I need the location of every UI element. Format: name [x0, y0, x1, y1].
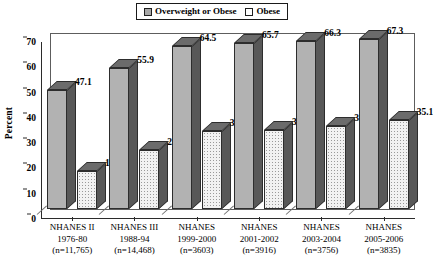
- bar-front-face: [47, 90, 67, 209]
- bar-front-face: [202, 131, 222, 209]
- bar-value-label: 66.3: [324, 28, 341, 38]
- bar-side-face: [129, 60, 138, 209]
- bar-side-face: [159, 142, 168, 209]
- bar-side-face: [379, 31, 388, 209]
- legend-swatch-icon-overweight-or-obese: [144, 8, 152, 16]
- bar-overweight-or-obese: 67.3: [359, 39, 379, 209]
- bar-overweight-or-obese: 47.1: [47, 90, 67, 209]
- x-axis-category-label: NHANES II1976-80(n=11,765): [41, 222, 103, 257]
- y-axis-tick-mark: [23, 112, 27, 113]
- bar-value-label: 64.5: [200, 33, 217, 43]
- bar-value-label: 67.3: [387, 26, 404, 36]
- x-axis-category-line: NHANES: [166, 222, 228, 234]
- y-axis-tick-label: 20: [27, 163, 42, 173]
- floor-depth-edge: [37, 205, 47, 214]
- x-axis-tick-mark: [384, 217, 385, 221]
- legend-swatch-icon-obese: [245, 8, 253, 16]
- bar-front-face: [264, 130, 284, 209]
- bar-overweight-or-obese: 64.5: [172, 46, 192, 209]
- bar-value-label: 55.9: [137, 55, 154, 65]
- x-axis-category-line: 1976-80: [41, 234, 103, 246]
- bar-value-label: 65.7: [262, 30, 279, 40]
- bar-front-face: [326, 126, 346, 209]
- y-axis-tick-label: 30: [27, 138, 42, 148]
- bar-side-face: [97, 163, 106, 209]
- x-axis-category-line: (n=3835): [353, 245, 415, 257]
- x-axis-tick-mark: [72, 217, 73, 221]
- bar-front-face: [139, 150, 159, 209]
- x-axis-tick-mark: [321, 217, 322, 221]
- y-axis-tick-label: 60: [27, 62, 42, 72]
- bar-group: 65.731.3: [234, 32, 296, 209]
- bar-obese: 32.9: [326, 126, 346, 209]
- bars-layer: 47.11555.923.264.530.965.731.366.332.967…: [41, 33, 415, 219]
- bar-side-face: [67, 82, 76, 209]
- bar-obese: 35.1: [389, 120, 409, 209]
- bar-obese: 15: [77, 171, 97, 209]
- x-axis-category-line: 2005-2006: [353, 234, 415, 246]
- x-axis-category-line: 1988-94: [103, 234, 165, 246]
- bar-side-face: [316, 33, 325, 209]
- bar-side-face: [346, 118, 355, 209]
- chart-legend: Overweight or Obese Obese: [136, 3, 288, 20]
- legend-label-overweight-or-obese: Overweight or Obese: [155, 7, 236, 16]
- bar-front-face: [77, 171, 97, 209]
- y-axis-tick-label: 50: [27, 88, 42, 98]
- y-axis-title: Percent: [4, 93, 14, 153]
- bar-group: 47.115: [47, 32, 109, 209]
- y-axis-tick-mark: [23, 62, 27, 63]
- bar-side-face: [284, 122, 293, 209]
- x-axis-category-line: NHANES III: [103, 222, 165, 234]
- bar-obese: 23.2: [139, 150, 159, 209]
- legend-entry-overweight-or-obese: Overweight or Obese: [144, 7, 236, 16]
- bar-side-face: [409, 112, 418, 209]
- bar-side-face: [254, 35, 263, 209]
- x-axis-category-line: (n=14,468): [103, 245, 165, 257]
- bar-overweight-or-obese: 55.9: [109, 68, 129, 209]
- y-axis-tick-mark: [23, 138, 27, 139]
- x-axis-category-line: NHANES II: [41, 222, 103, 234]
- x-axis-category-label: NHANES2001-2002(n=3916): [228, 222, 290, 257]
- bar-side-face: [192, 38, 201, 209]
- y-axis-tick-label: 0: [31, 214, 41, 224]
- plot-area: 010203040506070 47.11555.923.264.530.965…: [41, 33, 415, 219]
- x-axis-category-label: NHANES1999-2000(n=3603): [166, 222, 228, 257]
- bar-group: 66.332.9: [296, 32, 358, 209]
- x-axis-category-label: NHANES III1988-94(n=14,468): [103, 222, 165, 257]
- y-axis-tick-mark: [23, 163, 27, 164]
- y-axis-tick-mark: [23, 87, 27, 88]
- x-axis-category-line: NHANES: [290, 222, 352, 234]
- x-axis-category-line: 2001-2002: [228, 234, 290, 246]
- y-axis-tick-label: 10: [27, 189, 42, 199]
- x-axis-category-line: (n=3756): [290, 245, 352, 257]
- bar-obese: 31.3: [264, 130, 284, 209]
- bar-front-face: [296, 41, 316, 209]
- bar-front-face: [359, 39, 379, 209]
- bar-group: 64.530.9: [172, 32, 234, 209]
- bar-value-label: 47.1: [75, 77, 92, 87]
- bar-front-face: [172, 46, 192, 209]
- x-axis-tick-mark: [259, 217, 260, 221]
- legend-label-obese: Obese: [256, 7, 280, 16]
- x-axis-category-line: NHANES: [228, 222, 290, 234]
- x-axis-category-line: (n=11,765): [41, 245, 103, 257]
- x-axis-category-line: 2003-2004: [290, 234, 352, 246]
- x-axis-category-line: NHANES: [353, 222, 415, 234]
- y-axis-tick-mark: [23, 188, 27, 189]
- x-axis-category-line: (n=3916): [228, 245, 290, 257]
- x-axis-tick-mark: [134, 217, 135, 221]
- bar-overweight-or-obese: 66.3: [296, 41, 316, 209]
- y-axis-tick-label: 40: [27, 113, 42, 123]
- x-axis-tick-mark: [197, 217, 198, 221]
- x-axis-category-line: (n=3603): [166, 245, 228, 257]
- x-axis-category-line: 1999-2000: [166, 234, 228, 246]
- bar-front-face: [109, 68, 129, 209]
- y-axis-tick-label: 70: [27, 37, 42, 47]
- bar-value-label: 35.1: [417, 107, 433, 117]
- x-axis-category-label: NHANES2003-2004(n=3756): [290, 222, 352, 257]
- legend-entry-obese: Obese: [245, 7, 280, 16]
- bar-group: 55.923.2: [109, 32, 171, 209]
- bar-front-face: [389, 120, 409, 209]
- bar-obese: 30.9: [202, 131, 222, 209]
